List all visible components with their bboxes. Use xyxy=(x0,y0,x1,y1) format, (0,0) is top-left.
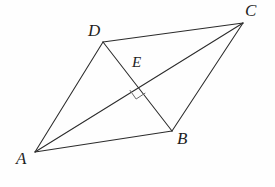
diagonals xyxy=(35,23,243,152)
vertex-label-e: E xyxy=(132,55,141,70)
figure-canvas xyxy=(0,0,275,187)
vertex-label-c: C xyxy=(245,2,256,19)
side-DC xyxy=(103,23,243,42)
side-BA xyxy=(35,131,172,152)
side-CB xyxy=(172,23,243,131)
diagonal-AC xyxy=(35,23,243,152)
side-AD xyxy=(35,42,103,152)
vertex-label-d: D xyxy=(88,22,100,39)
vertex-label-b: B xyxy=(177,130,187,147)
vertex-label-a: A xyxy=(16,150,26,167)
geometry-figure: A B C D E xyxy=(0,0,275,187)
